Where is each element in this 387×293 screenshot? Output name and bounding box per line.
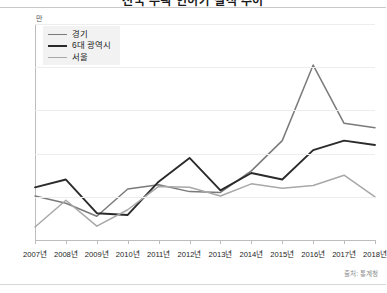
gridline-y-30 [35,110,375,111]
x-axis-tick-label: 2016년 [301,248,325,259]
legend-item-서울[interactable]: 서울 [48,53,111,61]
x-axis-line [35,240,375,241]
page-title: 전국 주택 인허가 실적 추이 [122,0,264,7]
gridline-y-10 [35,197,375,198]
legend-item-경기[interactable]: 경기 [48,30,111,38]
source-attribution: 출처: 통계청 [344,268,378,278]
gridline-y-40 [35,67,375,68]
x-axis-tick-mark [35,240,36,244]
x-axis-tick-label: 2014년 [239,248,263,259]
x-axis-tick-label: 2012년 [178,248,202,259]
x-axis-tick-mark [66,240,67,244]
legend-swatch-icon [48,34,67,35]
y-axis-unit-label: 만 [36,13,42,23]
x-axis-tick-label: 2011년 [147,248,170,259]
legend-item-6대 광역시[interactable]: 6대 광역시 [48,41,111,49]
legend-swatch-icon [48,57,67,58]
x-axis-tick-mark [344,240,345,244]
gridline-y-50 [35,24,375,25]
x-axis-tick-mark [313,240,314,244]
chart-title-strip: 전국 주택 인허가 실적 추이 [0,0,386,7]
legend-swatch-icon [48,45,67,47]
chart-legend: 경기6대 광역시서울 [43,26,120,65]
x-axis-tick-label: 2017년 [332,248,356,259]
x-axis-tick-label: 2007년 [23,248,47,259]
series-line-6대 광역시 [35,141,375,215]
x-axis-tick-label: 2010년 [116,248,140,259]
x-axis-tick-mark [375,240,376,244]
bottom-divider [0,284,386,285]
x-axis-tick-label: 2013년 [209,248,233,259]
x-axis-tick-mark [128,240,129,244]
series-line-경기 [35,65,375,216]
x-axis-tick-mark [282,240,283,244]
x-axis-tick-mark [97,240,98,244]
x-axis-tick-label: 2018년 [363,248,387,259]
x-axis-tick-mark [251,240,252,244]
legend-item-label: 경기 [72,30,88,38]
x-axis-tick-label: 2015년 [270,248,294,259]
x-axis-tick-mark [159,240,160,244]
x-axis-tick-mark [190,240,191,244]
legend-item-label: 서울 [72,53,88,61]
title-divider [0,7,386,8]
x-axis-tick-mark [220,240,221,244]
x-axis-tick-label: 2008년 [54,248,78,259]
x-axis-tick-label: 2009년 [85,248,109,259]
gridline-y-20 [35,154,375,155]
legend-item-label: 6대 광역시 [72,41,111,49]
